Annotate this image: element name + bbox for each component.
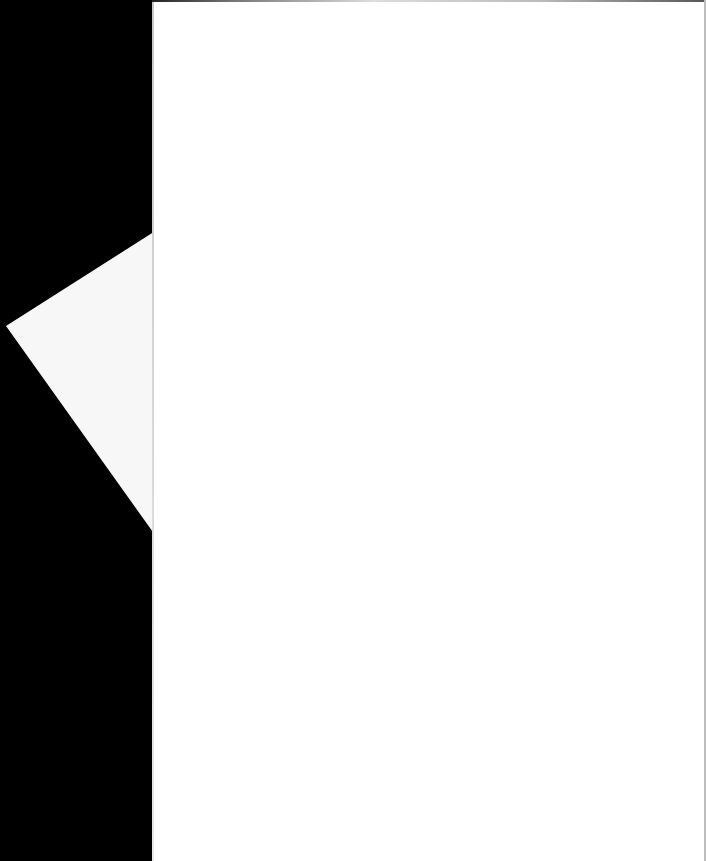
blank-page	[152, 0, 706, 861]
page-left-edge	[152, 0, 154, 861]
page-content	[172, 20, 686, 841]
page-top-edge	[152, 0, 706, 2]
